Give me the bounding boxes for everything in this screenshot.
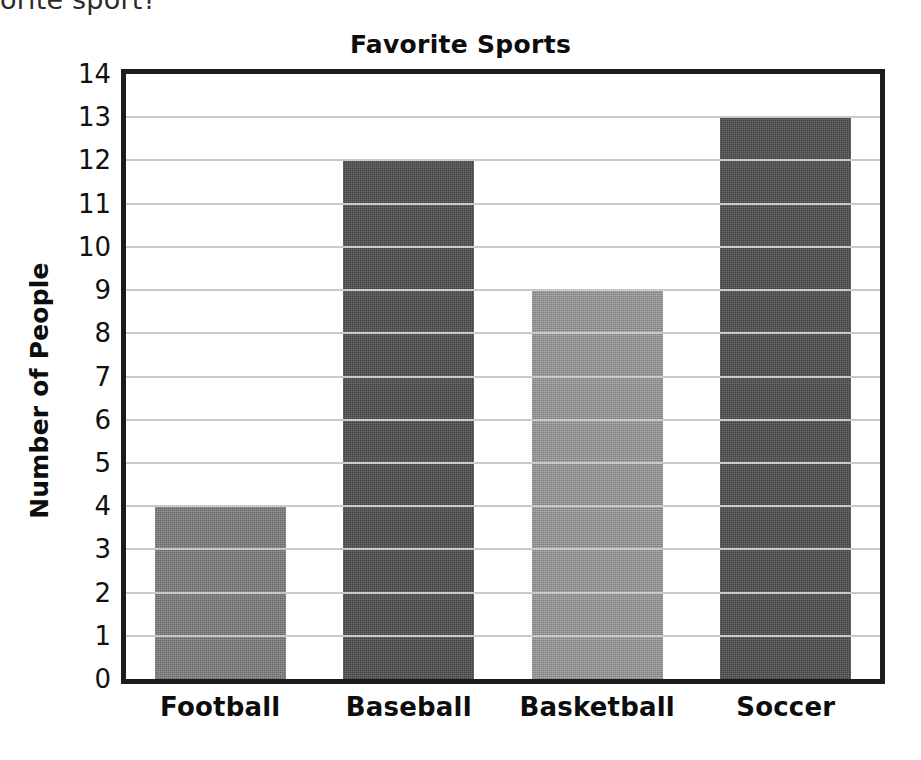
- gridline: [126, 159, 880, 161]
- gridline: [126, 116, 880, 118]
- gridline: [126, 592, 880, 594]
- plot-inner: [126, 74, 880, 679]
- y-tick-label: 1: [67, 621, 111, 651]
- chart-title: Favorite Sports: [0, 30, 921, 59]
- gridline: [126, 462, 880, 464]
- y-tick-label: 13: [67, 102, 111, 132]
- gridline: [126, 419, 880, 421]
- y-tick-label: 6: [67, 405, 111, 435]
- gridline: [126, 376, 880, 378]
- x-axis-tick-labels: FootballBaseballBasketballSoccer: [121, 692, 885, 736]
- y-tick-label: 8: [67, 318, 111, 348]
- y-tick-label: 9: [67, 275, 111, 305]
- y-tick-label: 11: [67, 189, 111, 219]
- bar-basketball: [532, 290, 663, 679]
- gridline: [126, 332, 880, 334]
- y-tick-label: 2: [67, 578, 111, 608]
- x-tick-label: Soccer: [636, 692, 921, 722]
- y-tick-label: 12: [67, 145, 111, 175]
- y-axis-tick-labels: 14131211109876543210: [57, 69, 111, 684]
- y-tick-label: 10: [67, 232, 111, 262]
- y-axis-title: Number of People: [25, 251, 54, 531]
- clipped-question-text: orite sport?: [0, 0, 157, 15]
- y-tick-label: 7: [67, 362, 111, 392]
- y-tick-label: 3: [67, 534, 111, 564]
- y-tick-label: 5: [67, 448, 111, 478]
- bar-soccer: [720, 117, 851, 679]
- y-tick-label: 0: [67, 664, 111, 694]
- plot-area: [121, 69, 885, 684]
- gridline: [126, 505, 880, 507]
- gridline: [126, 203, 880, 205]
- gridline: [126, 289, 880, 291]
- gridline: [126, 635, 880, 637]
- y-tick-label: 4: [67, 491, 111, 521]
- gridline: [126, 246, 880, 248]
- gridline: [126, 548, 880, 550]
- y-tick-label: 14: [67, 59, 111, 89]
